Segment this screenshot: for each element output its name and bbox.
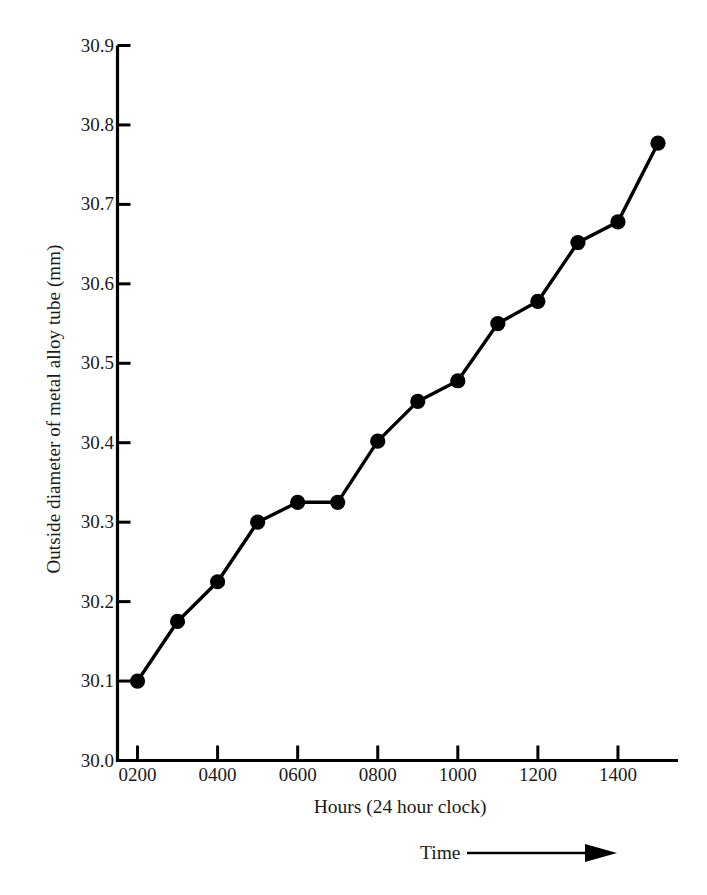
data-point-marker xyxy=(170,614,185,629)
right-arrow-icon xyxy=(467,842,617,864)
data-point-marker xyxy=(650,136,665,151)
data-series-markers xyxy=(130,136,666,689)
data-point-marker xyxy=(410,394,425,409)
axes-group xyxy=(116,46,678,761)
data-point-marker xyxy=(570,235,585,250)
data-line xyxy=(138,143,658,681)
data-point-marker xyxy=(210,574,225,589)
data-point-marker xyxy=(130,673,145,688)
data-point-marker xyxy=(490,316,505,331)
data-point-marker xyxy=(290,495,305,510)
data-series-line xyxy=(138,143,658,681)
data-point-marker xyxy=(530,294,545,309)
x-axis-title: Hours (24 hour clock) xyxy=(120,796,680,818)
data-point-marker xyxy=(250,515,265,530)
data-point-marker xyxy=(330,495,345,510)
chart-figure: Outside diameter of metal alloy tube (mm… xyxy=(0,0,707,895)
data-point-marker xyxy=(450,373,465,388)
data-point-marker xyxy=(370,434,385,449)
plot-area xyxy=(0,0,707,895)
data-point-marker xyxy=(610,214,625,229)
time-annotation: Time xyxy=(420,842,617,864)
time-annotation-label: Time xyxy=(420,842,460,864)
